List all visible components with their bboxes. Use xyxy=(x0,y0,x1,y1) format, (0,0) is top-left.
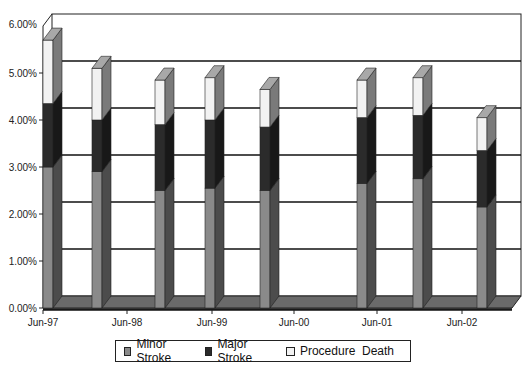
bar-segment-procedure-death xyxy=(92,68,102,120)
legend-label-major-stroke: Major Stroke xyxy=(217,337,270,365)
chart-floor xyxy=(43,296,521,310)
bar-segment-minor-stroke xyxy=(92,172,102,308)
bar-side-minor-stroke xyxy=(487,195,496,308)
bar-side-procedure-death xyxy=(53,28,62,103)
x-tick-label: Jun-02 xyxy=(447,317,478,328)
floor-top xyxy=(43,296,521,308)
wall-edge xyxy=(43,14,52,26)
bar-side-major-stroke xyxy=(367,106,376,184)
x-tick-label: Jun-01 xyxy=(362,317,393,328)
bar-segment-minor-stroke xyxy=(260,191,270,309)
chart-back-wall xyxy=(43,14,521,308)
bar-segment-major-stroke xyxy=(413,115,423,178)
bar-stack xyxy=(205,66,224,308)
bar-side-major-stroke xyxy=(53,92,62,167)
bar-side-minor-stroke xyxy=(102,160,111,308)
legend-label-minor-stroke: Minor Stroke xyxy=(136,337,189,365)
bar-side-minor-stroke xyxy=(367,171,376,308)
bar-side-minor-stroke xyxy=(270,179,279,309)
bar-segment-procedure-death xyxy=(205,78,215,120)
bar-segment-major-stroke xyxy=(477,151,487,207)
legend-item-procedure-death: Procedure Death xyxy=(286,344,394,358)
bar-stack xyxy=(155,68,174,308)
bar-segment-minor-stroke xyxy=(155,191,165,309)
bar-stack xyxy=(92,56,111,308)
y-axis: 0.00%1.00%2.00%3.00%4.00%5.00%6.00% xyxy=(9,19,43,314)
x-tick-label: Jun-00 xyxy=(279,317,310,328)
bar-segment-minor-stroke xyxy=(477,207,487,308)
bar-side-minor-stroke xyxy=(423,167,432,308)
bar-stack xyxy=(357,68,376,308)
y-tick-label: 5.00% xyxy=(9,68,37,79)
bar-side-major-stroke xyxy=(215,108,224,188)
bar-segment-minor-stroke xyxy=(413,179,423,308)
legend-swatch-procedure-death xyxy=(286,347,295,356)
x-tick-label: Jun-99 xyxy=(197,317,228,328)
bar-segment-major-stroke xyxy=(43,104,53,167)
y-tick-label: 4.00% xyxy=(9,115,37,126)
bar-segment-procedure-death xyxy=(155,80,165,125)
bar-segment-procedure-death xyxy=(413,78,423,116)
bar-side-major-stroke xyxy=(165,113,174,191)
legend-item-major-stroke: Major Stroke xyxy=(205,337,270,365)
y-tick-label: 0.00% xyxy=(9,303,37,314)
bar-segment-minor-stroke xyxy=(43,167,53,308)
legend-swatch-minor-stroke xyxy=(124,347,131,356)
y-tick-label: 1.00% xyxy=(9,256,37,267)
bar-segment-major-stroke xyxy=(260,127,270,190)
bar-segment-procedure-death xyxy=(260,89,270,127)
bar-segment-minor-stroke xyxy=(357,183,367,308)
bar-side-major-stroke xyxy=(270,115,279,190)
bar-side-major-stroke xyxy=(423,103,432,178)
bar-segment-minor-stroke xyxy=(205,188,215,308)
bar-stack xyxy=(477,106,496,308)
bar-stack xyxy=(260,77,279,308)
bar-segment-major-stroke xyxy=(357,118,367,184)
legend-item-minor-stroke: Minor Stroke xyxy=(124,337,189,365)
x-tick-label: Jun-98 xyxy=(112,317,143,328)
bar-segment-major-stroke xyxy=(155,125,165,191)
bar-side-minor-stroke xyxy=(215,176,224,308)
bar-side-minor-stroke xyxy=(165,179,174,309)
bar-segment-procedure-death xyxy=(43,40,53,103)
bar-segment-major-stroke xyxy=(92,120,102,172)
stacked-bar-chart: 0.00%1.00%2.00%3.00%4.00%5.00%6.00% Jun-… xyxy=(0,0,532,340)
legend-label-procedure-death: Procedure Death xyxy=(300,344,394,358)
bar-stack xyxy=(43,28,62,308)
x-axis: Jun-97Jun-98Jun-99Jun-00Jun-01Jun-02 xyxy=(28,310,512,328)
legend-swatch-major-stroke xyxy=(205,347,212,356)
bar-segment-procedure-death xyxy=(357,80,367,118)
bar-side-minor-stroke xyxy=(53,155,62,308)
bar-segment-procedure-death xyxy=(477,118,487,151)
chart-legend: Minor Stroke Major Stroke Procedure Deat… xyxy=(115,340,411,362)
bar-stack xyxy=(413,66,432,308)
x-tick-label: Jun-97 xyxy=(28,317,59,328)
y-tick-label: 6.00% xyxy=(9,19,37,30)
y-tick-label: 2.00% xyxy=(9,209,37,220)
bar-segment-major-stroke xyxy=(205,120,215,188)
y-tick-label: 3.00% xyxy=(9,162,37,173)
